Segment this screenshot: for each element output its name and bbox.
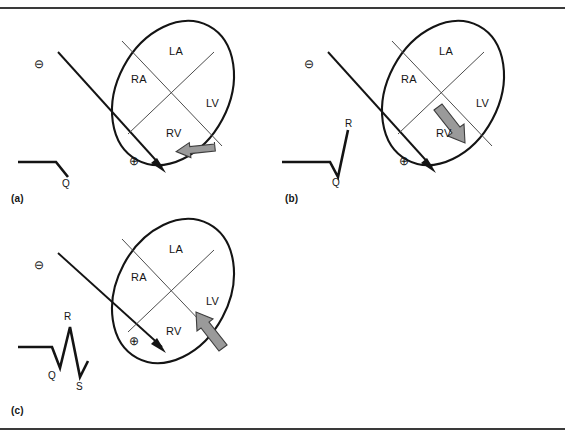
panel-label-a: (a) <box>11 193 24 204</box>
ecg-trace-a <box>18 162 68 177</box>
axis-positive-pole-c: ⊕ <box>129 335 139 347</box>
axis-positive-pole-a: ⊕ <box>129 155 139 167</box>
axis-negative-pole-b: ⊖ <box>304 58 314 70</box>
ecg-trace-b <box>282 130 348 177</box>
wave-label-r-c: R <box>64 311 71 322</box>
panel-b: ⊖ ⊕ LA RA LV RV R Q (b) <box>282 10 565 215</box>
wave-label-q-b: Q <box>332 177 340 188</box>
heart-outline-a <box>88 10 258 186</box>
wave-label-r-b: R <box>345 118 352 129</box>
panel-label-b: (b) <box>285 193 298 204</box>
chamber-label-rv-c: RV <box>166 325 182 337</box>
panel-a: ⊖ ⊕ LA RA LV RV Q (a) <box>0 10 282 215</box>
panel-a-graphics <box>0 10 282 215</box>
chamber-label-rv-a: RV <box>166 127 182 139</box>
chamber-label-la-a: LA <box>169 45 183 57</box>
chamber-label-la-c: LA <box>169 243 183 255</box>
wave-label-q-c: Q <box>48 370 56 381</box>
axis-negative-pole-c: ⊖ <box>34 259 44 271</box>
panel-b-graphics <box>282 10 565 215</box>
heart-outline-c <box>88 215 258 384</box>
wave-label-q-a: Q <box>62 178 70 189</box>
panel-label-c: (c) <box>11 405 24 416</box>
axis-negative-pole-a: ⊖ <box>34 58 44 70</box>
chamber-label-la-b: LA <box>439 45 453 57</box>
chamber-label-lv-c: LV <box>206 295 219 307</box>
panel-c-graphics <box>0 215 282 427</box>
chamber-label-lv-b: LV <box>476 97 489 109</box>
panel-c: ⊖ ⊕ LA RA LV RV R Q S (c) <box>0 215 282 427</box>
wave-label-s-c: S <box>76 381 83 392</box>
chamber-label-ra-b: RA <box>401 73 417 85</box>
chamber-label-ra-a: RA <box>131 73 147 85</box>
chamber-label-lv-a: LV <box>206 97 219 109</box>
top-divider-rule <box>0 7 565 9</box>
figure-frame: ⊖ ⊕ LA RA LV RV Q (a) <box>0 0 565 442</box>
heart-outline-b <box>358 10 528 186</box>
chamber-label-rv-b: RV <box>436 127 452 139</box>
depolarization-vector-a <box>175 140 215 159</box>
chamber-label-ra-c: RA <box>131 271 147 283</box>
bottom-divider-rule <box>0 428 565 430</box>
axis-positive-pole-b: ⊕ <box>399 155 409 167</box>
